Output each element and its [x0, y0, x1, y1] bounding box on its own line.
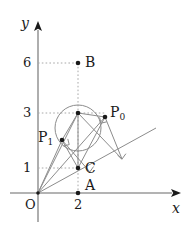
point-label-P0-sub: 0: [119, 112, 125, 122]
x-axis-label: x: [172, 201, 180, 215]
segment-P1-M: [62, 113, 78, 140]
point-label-B: B: [85, 55, 95, 69]
point-label-P1-sub: 1: [47, 137, 53, 147]
point-label-A: A: [85, 178, 95, 192]
y-tick-label-3: 3: [23, 106, 31, 119]
point-marker-A: [76, 191, 81, 196]
point-marker-C: [76, 166, 81, 171]
segment-M-P0: [78, 113, 105, 117]
segment-P0-foot2: [105, 117, 122, 159]
x-tick-label-2: 2: [74, 198, 82, 211]
point-label-P1-base: P: [38, 129, 47, 145]
point-marker-M: [76, 111, 81, 116]
right-angle-mark-foot2: [118, 154, 126, 160]
y-tick-label-1: 1: [23, 161, 31, 174]
geometry-figure: y x O 2 6 3 1 B P0 P1 C A: [0, 0, 196, 228]
point-label-P1: P1: [38, 130, 53, 147]
point-marker-P1: [60, 138, 65, 143]
origin-label: O: [25, 198, 36, 211]
construction-lines-group: [38, 113, 122, 193]
point-marker-B: [76, 61, 81, 66]
y-axis-label: y: [21, 16, 29, 30]
segment-O-M: [38, 113, 78, 193]
point-label-P0-base: P: [110, 104, 119, 120]
point-marker-O: [36, 191, 40, 195]
slanted-ray: [38, 128, 156, 193]
point-label-P0: P0: [110, 105, 125, 122]
point-marker-P0: [103, 115, 108, 120]
point-label-C: C: [85, 161, 96, 175]
y-tick-label-6: 6: [23, 56, 31, 69]
